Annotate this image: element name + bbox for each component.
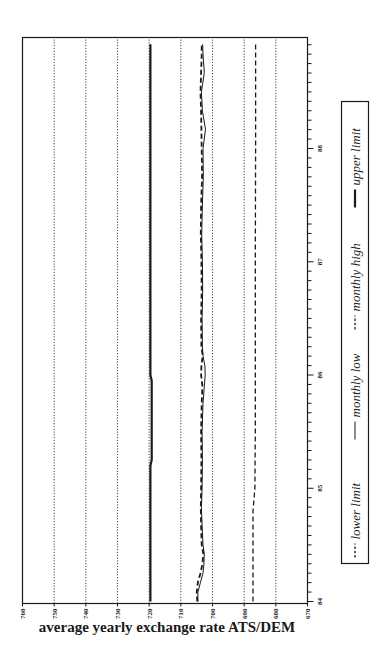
series-lower-limit — [253, 44, 256, 601]
y-tick-label: 740 — [82, 608, 90, 619]
x-tick-label: 88 — [315, 144, 323, 152]
x-tick-label: 85 — [315, 484, 323, 492]
y-tick-label: 750 — [50, 608, 58, 619]
rotated-chart: 8485868788 67068069070071072073074075076… — [0, 0, 388, 669]
series-monthly-high — [196, 44, 203, 601]
series-lines — [150, 44, 255, 601]
y-tick-label: 680 — [272, 608, 280, 619]
legend-label: lower limit — [347, 482, 362, 539]
plot-frame — [22, 37, 307, 603]
x-tick-label: 84 — [315, 597, 323, 605]
y-tick-label: 670 — [304, 608, 312, 619]
x-tick-label: 87 — [315, 257, 323, 265]
y-axis: 670680690700710720730740750760 — [19, 603, 312, 619]
gridlines — [54, 37, 276, 603]
y-tick-label: 760 — [19, 608, 27, 619]
legend-label: monthly high — [347, 243, 362, 311]
y-tick-label: 690 — [240, 608, 248, 619]
y-tick-label: 700 — [209, 608, 217, 619]
y-tick-label: 730 — [114, 608, 122, 619]
y-axis-title: average yearly exchange rate ATS/DEM — [38, 618, 294, 634]
chart-svg: 8485868788 67068069070071072073074075076… — [0, 0, 388, 669]
x-axis: 8485868788 — [307, 44, 323, 604]
y-tick-label: 710 — [177, 608, 185, 619]
legend: lower limitmonthly lowmonthly highupper … — [341, 101, 368, 563]
series-upper-limit — [150, 44, 151, 601]
legend-label: upper limit — [347, 127, 362, 185]
chart-figure: 8485868788 67068069070071072073074075076… — [0, 0, 388, 669]
x-tick-label: 86 — [315, 371, 323, 379]
legend-label: monthly low — [347, 353, 362, 417]
y-tick-label: 720 — [145, 608, 153, 619]
